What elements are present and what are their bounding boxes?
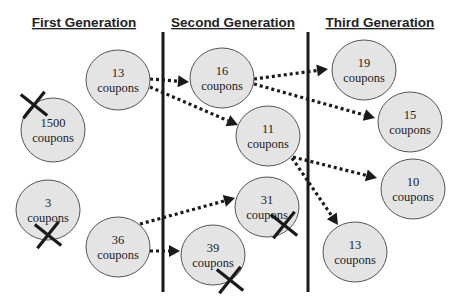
- arrow-g2_16-to-g3_19: [254, 65, 328, 79]
- nodes-layer: 13coupons1500coupons3coupons36coupons16c…: [16, 40, 445, 285]
- node-circle: [236, 106, 300, 166]
- heading-first-generation: First Generation: [32, 15, 136, 30]
- node-circle: [323, 222, 387, 282]
- arrow-head-icon: [365, 170, 377, 182]
- node-count: 3: [45, 196, 51, 210]
- arrow-head-icon: [316, 65, 328, 77]
- node-circle: [378, 92, 442, 152]
- node-circle: [332, 40, 396, 100]
- arrow-g2_11-to-g3_13: [292, 158, 338, 225]
- node-g1_3: 3coupons: [16, 180, 80, 240]
- node-count: 13: [112, 66, 125, 80]
- node-count: 36: [112, 233, 125, 247]
- node-circle: [86, 50, 150, 110]
- node-count: 13: [349, 238, 362, 252]
- node-unit: coupons: [32, 131, 74, 145]
- node-g3_15: 15coupons: [378, 92, 442, 152]
- node-unit: coupons: [389, 123, 431, 137]
- node-unit: coupons: [27, 211, 69, 225]
- node-count: 1500: [41, 116, 66, 130]
- arrow-head-icon: [223, 195, 235, 207]
- node-unit: coupons: [392, 190, 434, 204]
- arrow-g2_11-to-g3_10: [293, 157, 377, 181]
- node-g3_13: 13coupons: [323, 222, 387, 282]
- arrow-shaft: [150, 79, 178, 81]
- node-circle: [16, 180, 80, 240]
- node-g3_10: 10coupons: [381, 159, 445, 219]
- node-count: 15: [404, 108, 417, 122]
- arrow-g1_36-to-g2_39: [150, 245, 180, 257]
- node-unit: coupons: [201, 79, 243, 93]
- node-unit: coupons: [343, 71, 385, 85]
- node-count: 39: [207, 241, 220, 255]
- node-g1_13: 13coupons: [86, 50, 150, 110]
- node-g2_39: 39coupons: [181, 225, 245, 285]
- node-g1_36: 36coupons: [86, 217, 150, 277]
- node-unit: coupons: [97, 81, 139, 95]
- heading-second-generation: Second Generation: [171, 15, 295, 30]
- node-g2_16: 16coupons: [190, 48, 254, 108]
- node-count: 10: [407, 175, 420, 189]
- arrow-g1_36-to-g2_31: [140, 195, 235, 224]
- arrow-g1_13-to-g2_16: [150, 75, 189, 87]
- node-g2_11: 11coupons: [236, 106, 300, 166]
- node-unit: coupons: [192, 256, 234, 270]
- arrow-head-icon: [363, 109, 375, 121]
- arrow-head-icon: [169, 245, 180, 257]
- node-unit: coupons: [247, 137, 289, 151]
- node-circle: [190, 48, 254, 108]
- node-g3_19: 19coupons: [332, 40, 396, 100]
- node-circle: [86, 217, 150, 277]
- node-count: 16: [216, 64, 229, 78]
- arrow-head-icon: [327, 213, 338, 225]
- arrow-shaft: [140, 201, 224, 224]
- node-count: 31: [261, 193, 274, 207]
- coupon-generation-diagram: First Generation Second Generation Third…: [0, 0, 462, 304]
- node-unit: coupons: [97, 248, 139, 262]
- node-unit: coupons: [334, 253, 376, 267]
- node-unit: coupons: [246, 208, 288, 222]
- arrow-shaft: [293, 157, 366, 175]
- node-count: 11: [262, 122, 274, 136]
- heading-third-generation: Third Generation: [326, 15, 435, 30]
- node-count: 19: [358, 56, 371, 70]
- arrow-head-icon: [178, 75, 189, 87]
- node-circle: [381, 159, 445, 219]
- node-circle: [181, 225, 245, 285]
